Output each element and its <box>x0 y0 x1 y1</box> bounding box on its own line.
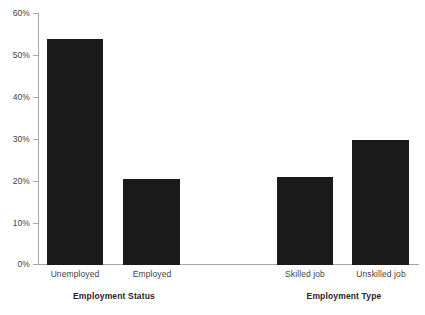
y-axis-label-0: 0% <box>0 259 30 269</box>
bar-unemployed <box>47 39 103 265</box>
y-axis-tick-20 <box>33 181 38 182</box>
y-axis-tick-60 <box>33 13 38 14</box>
group-title-employment-type: Employment Type <box>278 291 410 301</box>
y-axis-tick-50 <box>33 55 38 56</box>
bar-chart: 60% 50% 40% 30% 20% 10% 0% Unemployed Em… <box>0 0 425 315</box>
y-axis-label-40: 40% <box>0 92 30 102</box>
x-axis-label-unemployed: Unemployed <box>40 269 110 279</box>
bar-employed <box>123 179 180 265</box>
y-axis-tick-10 <box>33 223 38 224</box>
bar-unskilled-job <box>352 140 409 266</box>
bar-skilled-job <box>277 177 333 265</box>
y-axis-label-30: 30% <box>0 134 30 144</box>
y-axis-tick-40 <box>33 97 38 98</box>
x-axis-label-unskilled-job: Unskilled job <box>345 269 417 279</box>
y-axis-label-60: 60% <box>0 8 30 18</box>
x-axis-label-employed: Employed <box>117 269 187 279</box>
y-axis-label-10: 10% <box>0 218 30 228</box>
y-axis-label-50: 50% <box>0 50 30 60</box>
y-axis-line <box>38 13 39 265</box>
y-axis-label-20: 20% <box>0 176 30 186</box>
x-axis-label-skilled-job: Skilled job <box>270 269 340 279</box>
y-axis-tick-30 <box>33 139 38 140</box>
group-title-employment-status: Employment Status <box>48 291 180 301</box>
